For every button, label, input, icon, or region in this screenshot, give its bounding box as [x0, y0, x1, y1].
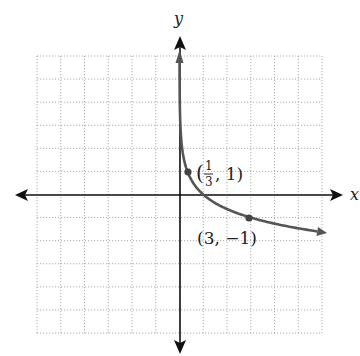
point-one-third-one	[184, 168, 191, 175]
curve-top-arrow-icon	[176, 50, 184, 63]
log-curve	[180, 62, 318, 231]
curve-right-arrow-icon	[317, 227, 328, 236]
svg-text:3: 3	[205, 175, 213, 189]
point-three-neg-one	[245, 214, 252, 221]
x-axis	[15, 189, 343, 201]
log-graph: x y ( 1 3 , 1) (3, −1)	[0, 0, 360, 356]
svg-text:, 1): , 1)	[215, 164, 243, 184]
x-axis-label: x	[350, 185, 359, 204]
y-axis-label: y	[173, 9, 184, 28]
svg-text:1: 1	[205, 159, 213, 173]
point-label-one-third-one: ( 1 3 , 1)	[196, 159, 243, 189]
point-label-three-neg-one: (3, −1)	[197, 228, 257, 248]
svg-text:(: (	[196, 161, 204, 185]
